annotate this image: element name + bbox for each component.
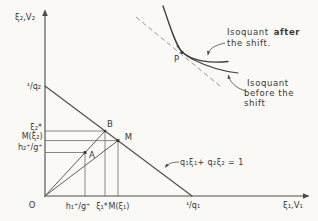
point-P-dot — [180, 51, 183, 54]
point-M-label: M — [125, 132, 132, 142]
point-P-label: P — [174, 54, 179, 64]
isoquant-after-curve — [163, 6, 228, 62]
point-B-dot — [104, 130, 107, 133]
isoquant-after-word2: after — [274, 27, 301, 37]
isoquant-shift-figure: ξ₂,V₂ ξ₁,V₁ O ¹/q₂ ¹/q₁ ξ₂* M(ξ₂) h₂⁺/g⁺… — [0, 0, 318, 221]
after-label-arrow — [208, 43, 225, 55]
point-B-label: B — [107, 119, 113, 129]
diagram-canvas: ξ₂,V₂ ξ₁,V₁ O ¹/q₂ ¹/q₁ ξ₂* M(ξ₂) h₂⁺/g⁺… — [0, 0, 318, 221]
x-intercept-label: ¹/q₁ — [186, 201, 200, 210]
ray-O-to-M — [45, 141, 118, 196]
point-M-dot — [117, 139, 120, 142]
xtick-h1g: h₁⁺/g⁺ — [66, 202, 91, 211]
isoquant-before-label-line1: Isoquant — [247, 78, 289, 88]
dashed-tangent-line — [136, 17, 220, 86]
ytick-h2g: h₂⁺/g⁺ — [18, 143, 43, 152]
isoquant-after-label-line1: Isoquantafter — [227, 27, 300, 37]
isoquant-after-word1: Isoquant — [227, 27, 269, 37]
point-A-dot — [84, 151, 87, 154]
isoquant-before-label-line3: shift — [244, 98, 265, 108]
ytick-m-xi2: M(ξ₂) — [22, 132, 43, 141]
budget-equation-label: q₁ξ₁+ q₂ξ₂ = 1 — [180, 158, 244, 167]
isoquant-before-curve — [177, 46, 238, 73]
point-A-label: A — [89, 150, 95, 160]
y-intercept-label: ¹/q₂ — [27, 82, 41, 91]
origin-label: O — [29, 200, 36, 210]
y-axis-label: ξ₂,V₂ — [15, 12, 35, 22]
budget-label-arrow — [166, 162, 180, 167]
ytick-xi2star: ξ₂* — [30, 123, 42, 132]
xtick-m-xi1: M(ξ₁) — [109, 202, 130, 211]
isoquant-before-label-line2: before the — [244, 88, 294, 98]
isoquant-after-label-line2: the shift. — [227, 38, 271, 48]
x-axis-label: ξ₁,V₁ — [283, 200, 303, 210]
xtick-xi1star: ξ₁* — [96, 202, 108, 211]
